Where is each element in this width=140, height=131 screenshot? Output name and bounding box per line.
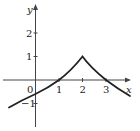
graph: y x 0 1 2 3 1 2 −1 — [0, 0, 140, 131]
y-axis-arrow-icon — [33, 4, 38, 10]
x-tick-3: 3 — [103, 84, 109, 95]
y-tick-2: 2 — [26, 28, 32, 39]
x-axis-arrow-icon — [125, 78, 131, 83]
origin-label: 0 — [27, 84, 33, 95]
y-axis-label: y — [26, 4, 33, 15]
ticks — [34, 33, 107, 104]
x-tick-1: 1 — [56, 84, 62, 95]
y-tick-1: 1 — [26, 51, 32, 62]
x-tick-2: 2 — [80, 84, 86, 95]
